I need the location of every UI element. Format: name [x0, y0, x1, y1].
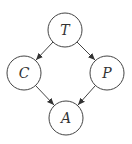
- edge-t-to-c: [36, 42, 53, 60]
- node-p-label: P: [101, 65, 112, 81]
- dag-diagram: T C P A: [0, 0, 132, 144]
- node-c-label: C: [19, 65, 30, 81]
- edge-p-to-a: [78, 86, 95, 105]
- node-a-label: A: [59, 110, 71, 126]
- node-t: T: [48, 13, 82, 47]
- edge-c-to-a: [36, 86, 54, 105]
- node-a: A: [49, 101, 83, 135]
- node-c: C: [7, 56, 41, 90]
- node-p: P: [90, 56, 124, 90]
- edge-t-to-p: [77, 42, 95, 60]
